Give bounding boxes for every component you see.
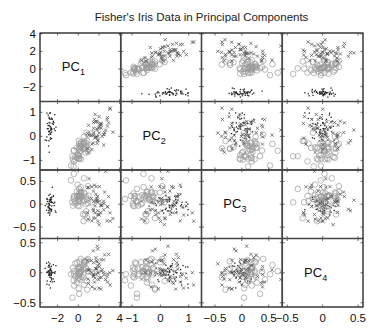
x-tick-label: 4 [117, 312, 124, 324]
y-tick-label: −1 [23, 154, 36, 166]
x-tick-label: 0 [239, 312, 245, 324]
y-tick-label: 0 [30, 267, 36, 279]
y-tick-label: −0.5 [13, 221, 36, 233]
x-tick-label: 0 [75, 312, 81, 324]
y-tick-label: 0.5 [20, 175, 36, 187]
x-tick-label: −0.5 [276, 312, 299, 324]
x-tick-label: 0 [157, 312, 163, 324]
x-axis-labels: −2024−101−0.500.5−0.500.5 [51, 312, 366, 324]
y-tick-label: −0.5 [13, 297, 36, 309]
y-tick-label: 4 [30, 28, 37, 40]
y-tick-label: 0 [30, 130, 36, 142]
diagonal-cell-pc1: PC1 [40, 33, 121, 102]
diagonal-label: PC4 [304, 265, 327, 283]
diagonal-label: PC2 [143, 128, 166, 146]
diagonal-label: PC1 [62, 59, 85, 77]
y-tick-label: 0 [30, 198, 36, 210]
cell-border [121, 33, 202, 102]
scatter-matrix: PC1PC2PC3PC4420−210−10.50−0.50.50−0.5−20… [0, 0, 384, 332]
x-tick-label: 0.5 [350, 312, 366, 324]
scatter-cell-pc4-vs-pc3 [282, 170, 363, 239]
diagonal-cell-pc4: PC4 [282, 239, 363, 308]
x-tick-label: −0.5 [204, 312, 227, 324]
y-tick-label: 0 [30, 63, 36, 75]
y-tick-label: 0.5 [20, 237, 36, 249]
scatter-cell-pc1-vs-pc2 [40, 102, 121, 171]
y-tick-label: 1 [30, 106, 36, 118]
x-tick-label: −2 [51, 312, 64, 324]
x-tick-label: 0 [319, 312, 325, 324]
y-tick-label: 2 [30, 45, 36, 57]
diagonal-cell-pc3: PC3 [202, 170, 283, 239]
diagonal-label: PC3 [223, 196, 246, 214]
x-tick-label: 2 [96, 312, 102, 324]
cell-border [40, 102, 121, 171]
diagonal-cell-pc2: PC2 [121, 102, 202, 171]
x-tick-label: 0.5 [261, 312, 277, 324]
x-tick-label: −1 [126, 312, 139, 324]
x-tick-label: 1 [186, 312, 192, 324]
y-tick-label: −2 [23, 81, 36, 93]
y-axis-labels: 420−210−10.50−0.50.50−0.5 [13, 28, 36, 309]
cell-border [282, 170, 363, 239]
scatter-cell-pc2-vs-pc1 [121, 33, 202, 102]
